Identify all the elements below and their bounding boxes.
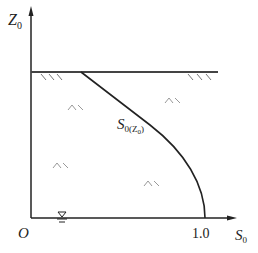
- y-axis-label: Z0: [8, 11, 22, 31]
- x-axis-label: S0: [235, 227, 248, 245]
- x-tick-label: 1.0: [192, 226, 210, 241]
- surface-hatch-right: [188, 74, 211, 80]
- curve-label: S0(Z0): [117, 116, 144, 136]
- y-axis-arrow-icon: [29, 6, 34, 16]
- water-table-icon: [57, 212, 67, 222]
- x-axis-arrow-icon: [227, 216, 237, 221]
- soil-symbols: [53, 98, 180, 186]
- surface-hatch-left: [41, 74, 62, 80]
- soil-saturation-diagram: Z0 O 1.0 S0 S0(Z0): [0, 0, 258, 253]
- saturation-curve: [81, 72, 205, 218]
- origin-label: O: [18, 225, 29, 241]
